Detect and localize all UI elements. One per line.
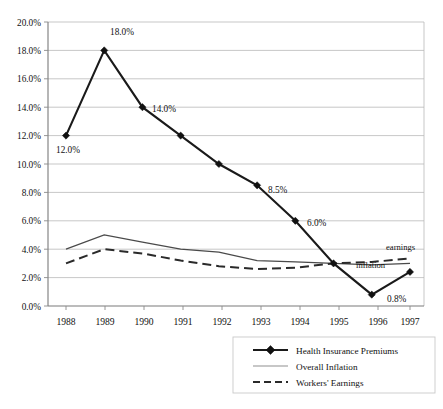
data-label-1996: 0.8% [387, 294, 407, 304]
data-point-marker [62, 132, 69, 139]
x-tick-label: 1997 [400, 316, 419, 327]
data-point-labels: 12.0% 18.0% 14.0% 8.5% 6.0% 0.8% [56, 27, 407, 304]
x-tick-label: 1995 [329, 316, 348, 327]
y-tick-label: 2.0% [22, 273, 42, 283]
line-chart: 20.0% 18.0% 16.0% 14.0% 12.0% 10.0% 8.0%… [0, 0, 443, 409]
x-tick-label: 1990 [134, 316, 153, 327]
y-tick-label: 12.0% [17, 131, 41, 141]
x-tick-label: 1996 [368, 316, 387, 327]
y-tick-label: 20.0% [17, 18, 41, 28]
data-label-1994: 6.0% [307, 218, 327, 228]
y-tick-label: 14.0% [17, 103, 41, 113]
data-label-1990: 14.0% [152, 104, 176, 114]
data-label-1989: 18.0% [110, 27, 134, 37]
legend-label: Health Insurance Premiums [296, 346, 398, 356]
annotation-inflation: inflation [356, 260, 386, 270]
y-tick-label: 16.0% [17, 74, 41, 84]
x-tick-label: 1994 [290, 316, 309, 327]
x-tick-label: 1992 [212, 316, 231, 327]
y-tick-label: 4.0% [22, 245, 42, 255]
x-tick-label: 1988 [56, 316, 75, 327]
series-annotations: earnings inflation [356, 242, 416, 270]
x-tick-label: 1989 [95, 316, 114, 327]
data-label-1993: 8.5% [268, 185, 288, 195]
x-tick-label: 1991 [173, 316, 192, 327]
y-tick-label: 6.0% [22, 216, 42, 226]
chart-container: 20.0% 18.0% 16.0% 14.0% 12.0% 10.0% 8.0%… [0, 0, 443, 409]
x-tick-label: 1993 [251, 316, 270, 327]
y-axis-labels: 20.0% 18.0% 16.0% 14.0% 12.0% 10.0% 8.0%… [17, 18, 41, 312]
series-line-health-insurance-premiums [66, 50, 410, 294]
y-tick-label: 0.0% [22, 302, 42, 312]
chart-legend: Health Insurance Premiums Overall Inflat… [233, 337, 435, 393]
annotation-earnings: earnings [386, 242, 416, 252]
legend-label: Overall Inflation [296, 362, 358, 372]
legend-label: Workers' Earnings [296, 378, 364, 388]
y-tickmarks [44, 22, 48, 306]
y-tick-label: 10.0% [17, 160, 41, 170]
gridlines [48, 22, 424, 278]
x-axis-labels: 1988 1989 1990 1991 1992 1993 1994 1995 … [56, 316, 419, 327]
x-tickmarks [66, 306, 410, 310]
y-tick-label: 8.0% [22, 188, 42, 198]
y-tick-label: 18.0% [17, 46, 41, 56]
data-label-1988: 12.0% [56, 145, 80, 155]
